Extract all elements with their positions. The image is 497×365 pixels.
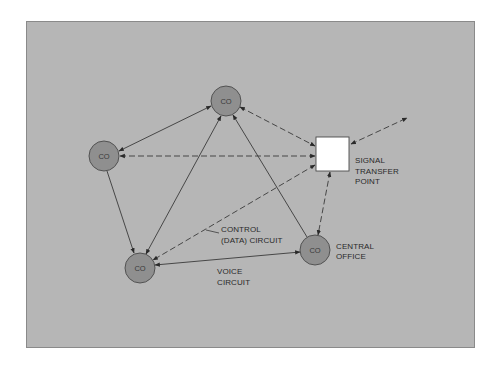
svg-text:CONTROL: CONTROL: [221, 225, 261, 234]
edge-top-left: [119, 106, 211, 151]
svg-text:OFFICE: OFFICE: [336, 252, 366, 261]
svg-text:CO: CO: [98, 152, 109, 161]
voice-circuit-label: VOICE CIRCUIT: [217, 267, 250, 287]
svg-text:CO: CO: [134, 264, 145, 273]
svg-text:SIGNAL: SIGNAL: [355, 156, 385, 165]
edge-stp-bottomleft: [153, 165, 315, 260]
signal-transfer-point: [316, 137, 349, 171]
svg-text:VOICE: VOICE: [217, 267, 242, 276]
edge-stp-offpage: [351, 118, 407, 144]
svg-text:TRANSFER: TRANSFER: [355, 167, 399, 176]
svg-text:CO: CO: [309, 246, 320, 255]
network-diagram: CO CO CO CO SIGNAL TRANSFER POINT CENTRA…: [0, 0, 497, 365]
co-node-top: CO: [211, 86, 241, 116]
edge-left-bottomleft: [107, 171, 134, 253]
co-node-bottom-left: CO: [125, 253, 155, 283]
co-node-right: CO: [300, 235, 330, 265]
stp-label: SIGNAL TRANSFER POINT: [355, 156, 399, 186]
svg-text:CO: CO: [220, 97, 231, 106]
central-office-label: CENTRAL OFFICE: [336, 242, 374, 261]
svg-text:POINT: POINT: [355, 177, 380, 186]
edge-stp-right: [318, 172, 330, 235]
edge-top-stp: [240, 107, 315, 146]
svg-text:(DATA) CIRCUIT: (DATA) CIRCUIT: [221, 236, 283, 245]
control-circuit-label: CONTROL (DATA) CIRCUIT: [221, 225, 283, 245]
edge-top-bottomleft: [146, 116, 221, 254]
control-label-leader: [206, 230, 219, 233]
svg-text:CIRCUIT: CIRCUIT: [217, 278, 250, 287]
co-node-left: CO: [89, 141, 119, 171]
edge-bottomleft-right: [155, 252, 300, 265]
svg-text:CENTRAL: CENTRAL: [336, 242, 374, 251]
